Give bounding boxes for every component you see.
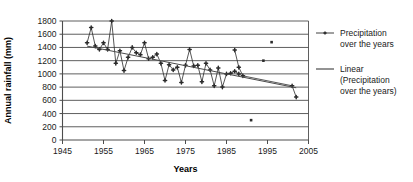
data-point-marker: [110, 19, 113, 22]
data-point-isolated: [262, 59, 265, 62]
data-point-marker: [118, 49, 121, 52]
x-axis-tick-label: 1945: [53, 146, 72, 156]
data-point-marker: [139, 53, 142, 56]
data-point-marker: [196, 64, 199, 67]
y-axis-tick-label: 800: [42, 82, 56, 92]
data-point-marker: [159, 62, 162, 65]
data-point-marker: [86, 41, 89, 44]
data-point-marker: [200, 80, 203, 83]
data-point-marker: [295, 95, 298, 98]
legend-marker-point: [323, 31, 326, 34]
y-axis-tick-label: 400: [42, 109, 56, 119]
data-point-marker: [127, 56, 130, 59]
data-point-marker: [180, 81, 183, 84]
y-axis-tick-label: 200: [42, 122, 56, 132]
x-axis-tick-label: 1995: [258, 146, 277, 156]
legend-item-label: over the years: [340, 39, 394, 49]
y-axis-tick-label: 1800: [38, 16, 57, 26]
legend-item-label: over the years): [340, 86, 397, 96]
data-point-marker: [143, 41, 146, 44]
data-point-isolated: [270, 41, 273, 44]
data-point-marker: [114, 62, 117, 65]
y-axis-tick-label: 600: [42, 95, 56, 105]
y-axis-tick-label: 1200: [38, 56, 57, 66]
trendline: [87, 46, 296, 88]
x-axis-tick-label: 1965: [135, 146, 154, 156]
x-axis-tick-label: 1985: [217, 146, 236, 156]
data-point-marker: [237, 66, 240, 69]
data-point-marker: [90, 26, 93, 29]
y-axis-tick-label: 1400: [38, 42, 57, 52]
x-axis-title: Years: [173, 164, 197, 174]
y-axis-tick-label: 1600: [38, 29, 57, 39]
data-point-marker: [188, 48, 191, 51]
data-point-marker: [233, 48, 236, 51]
chart-canvas: 0200400600800100012001400160018001945195…: [0, 0, 413, 182]
data-point-marker: [221, 86, 224, 89]
x-axis-tick-label: 1955: [94, 146, 113, 156]
data-point-marker: [217, 66, 220, 69]
data-series-line: [87, 21, 239, 87]
rainfall-chart: 0200400600800100012001400160018001945195…: [0, 0, 413, 182]
data-point-isolated: [250, 119, 253, 122]
data-point-marker: [163, 79, 166, 82]
y-axis-tick-label: 1000: [38, 69, 57, 79]
y-axis-title: Annual rainfall (mm): [3, 37, 13, 124]
x-axis-tick-label: 1975: [176, 146, 195, 156]
legend-item-label: Precipitation: [340, 28, 387, 38]
legend-item-label: (Precipitation: [340, 75, 390, 85]
y-axis-tick-label: 0: [52, 135, 57, 145]
x-axis-tick-label: 2005: [299, 146, 318, 156]
legend-item-label: Linear: [340, 64, 364, 74]
data-point-marker: [122, 69, 125, 72]
